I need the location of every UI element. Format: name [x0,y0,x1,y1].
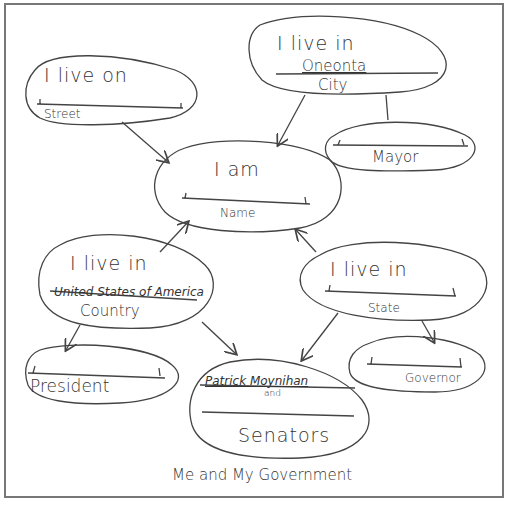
diagram-title: Me and My Government [172,466,352,484]
city-label: City [318,76,347,94]
country-prompt: I live in [70,252,148,274]
edge-street-name [122,122,168,162]
edge-state-name [296,230,316,252]
edge-state-senators [302,313,338,360]
state-label: State [368,301,400,315]
mayor-label: Mayor [372,148,418,166]
street-prompt: I live on [44,64,128,86]
senators-label: Senators [238,424,330,446]
name-label: Name [220,206,255,220]
city-bubble [249,16,446,94]
edge-country-senators [202,322,236,354]
governor-label: Governor [405,371,461,385]
city-value[interactable]: Oneonta [302,57,366,75]
senator-1-value[interactable]: Patrick Moynihan [205,374,308,388]
country-value[interactable]: United States of America [54,285,204,299]
edge-country-name [160,222,188,252]
country-label: Country [80,302,140,320]
president-label: President [30,376,109,396]
street-label: Street [44,107,80,121]
state-prompt: I live in [330,258,408,280]
edge-state-governor [422,321,434,342]
name-prompt: I am [214,158,260,180]
edge-city-name [278,95,305,145]
senators-joiner: and [264,388,281,398]
city-prompt: I live in [277,32,355,54]
edge-country-president [66,325,80,350]
